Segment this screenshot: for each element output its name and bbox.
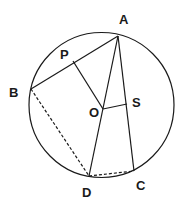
label-b: B: [9, 85, 18, 100]
segment-bd: [31, 89, 89, 176]
label-d: D: [82, 185, 91, 200]
circle: [29, 33, 174, 178]
segment-os: [103, 104, 127, 109]
label-o: O: [89, 105, 99, 120]
label-s: S: [132, 95, 141, 110]
segment-po: [73, 61, 103, 109]
geometry-diagram: A B P O S D C: [0, 0, 180, 207]
segment-dc: [89, 171, 134, 176]
label-c: C: [136, 178, 146, 193]
label-p: P: [60, 47, 69, 62]
label-a: A: [119, 12, 129, 27]
